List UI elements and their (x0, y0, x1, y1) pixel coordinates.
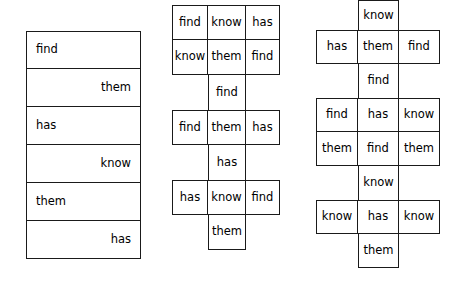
word-box-cell[interactable]: find (26, 31, 141, 69)
grid-cell[interactable]: has (172, 180, 208, 215)
grid-cell[interactable]: find (358, 132, 399, 166)
grid-cell[interactable]: know (399, 98, 440, 132)
word-box-cell[interactable]: has (26, 107, 141, 145)
grid-cell[interactable]: has (358, 98, 399, 132)
grid-spine-cell[interactable]: find (208, 75, 246, 110)
grid-spine-cell[interactable]: them (358, 234, 399, 268)
word-box-cell[interactable]: them (26, 183, 141, 221)
grid-cell[interactable]: them (316, 132, 358, 166)
grid-cell[interactable]: know (208, 5, 246, 40)
grid-cell[interactable]: them (399, 132, 440, 166)
word-box-cell[interactable]: know (26, 145, 141, 183)
grid-cell[interactable]: know (172, 40, 208, 75)
grid-cell[interactable]: know (316, 200, 358, 234)
grid-cell[interactable]: find (172, 5, 208, 40)
grid-cell[interactable]: them (208, 110, 246, 145)
grid-cell[interactable]: has (246, 110, 280, 145)
grid-cell[interactable]: find (246, 40, 280, 75)
grid-cell[interactable]: find (316, 98, 358, 132)
grid-cell[interactable]: know (399, 200, 440, 234)
grid-cell[interactable]: has (358, 200, 399, 234)
word-box-cell[interactable]: has (26, 221, 141, 259)
grid-cell[interactable]: find (399, 30, 440, 64)
grid-spine-cell[interactable]: them (208, 215, 246, 250)
grid-cell[interactable]: them (208, 40, 246, 75)
grid-spine-cell[interactable]: know (358, 0, 399, 30)
grid-cell[interactable]: find (172, 110, 208, 145)
grid-cell[interactable]: has (246, 5, 280, 40)
grid-cell[interactable]: has (316, 30, 358, 64)
word-box-cell[interactable]: them (26, 69, 141, 107)
grid-cell[interactable]: know (208, 180, 246, 215)
grid-spine-cell[interactable]: has (208, 145, 246, 180)
grid-cell[interactable]: find (246, 180, 280, 215)
grid-cell[interactable]: them (358, 30, 399, 64)
worksheet-canvas: find them has know them has find know ha… (0, 0, 450, 304)
grid-spine-cell[interactable]: find (358, 64, 399, 98)
grid-spine-cell[interactable]: know (358, 166, 399, 200)
